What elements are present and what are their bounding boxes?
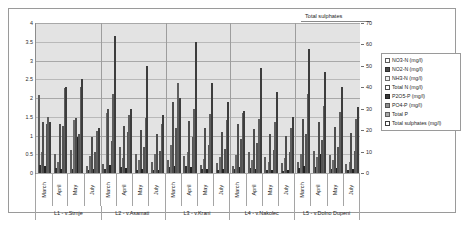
bar xyxy=(156,134,158,173)
month-axis-cell: April xyxy=(116,174,133,206)
legend-item[interactable]: Total sulphates (mg/l) xyxy=(385,119,458,128)
legend-item[interactable]: Total N (mg/l) xyxy=(385,83,458,92)
right-axis-tick-label: 10 xyxy=(366,149,372,155)
bar xyxy=(204,128,206,173)
right-axis-tick-label: 60 xyxy=(366,41,372,47)
month-axis-label: July xyxy=(348,185,354,195)
location-group-cell: L3 - v.Krani xyxy=(165,206,231,220)
right-axis-tickmark xyxy=(361,44,364,45)
gridline xyxy=(36,61,360,62)
month-axis-label: May xyxy=(267,185,273,196)
bar xyxy=(334,127,336,173)
legend-label: NO2-N (mg/l) xyxy=(392,65,423,74)
month-axis-label: March xyxy=(170,182,176,198)
month-axis-cell: July xyxy=(343,174,360,206)
bar xyxy=(107,109,109,173)
gridline xyxy=(36,117,360,118)
legend-item[interactable]: NO2-N (mg/l) xyxy=(385,65,458,74)
month-axis-label: March xyxy=(105,182,111,198)
right-axis-tickmark xyxy=(361,66,364,67)
legend-label: NO3-N (mg/l) xyxy=(392,56,423,65)
total-sulphates-annotation: Total sulphates xyxy=(305,13,342,19)
bar xyxy=(140,130,142,173)
right-axis-tick-label: 70 xyxy=(366,20,372,26)
chart-figure: Total sulphates 00.511.522.533.54 010203… xyxy=(0,0,464,232)
bar xyxy=(81,79,83,173)
legend-item[interactable]: PO4-P (mg/l) xyxy=(385,101,458,110)
bar xyxy=(285,136,287,173)
right-axis-tick-label: 30 xyxy=(366,106,372,112)
right-axis-tickmark xyxy=(361,152,364,153)
bar xyxy=(302,119,304,173)
gridline xyxy=(36,154,360,155)
month-axis-label: July xyxy=(218,185,224,195)
bar xyxy=(227,102,229,173)
chart-frame: Total sulphates 00.511.522.533.54 010203… xyxy=(8,8,456,213)
legend-item[interactable]: NO3-N (mg/l) xyxy=(385,56,458,65)
month-axis-label: April xyxy=(56,184,62,195)
right-axis-tick-label: 40 xyxy=(366,84,372,90)
location-group-label: L4 - v.Nakolec xyxy=(245,210,279,216)
bar xyxy=(172,102,174,173)
bar xyxy=(98,128,100,173)
group-separator xyxy=(295,23,296,173)
legend-label: P2O5-P (mg/l) xyxy=(392,92,425,101)
month-axis-label: May xyxy=(202,185,208,196)
bar xyxy=(276,92,278,173)
month-axis-cell: March xyxy=(229,174,246,206)
bar xyxy=(59,124,61,173)
legend-swatch-icon xyxy=(385,94,390,99)
bar xyxy=(221,132,223,173)
bar xyxy=(146,66,148,173)
month-axis-cell: April xyxy=(310,174,327,206)
month-axis-label: April xyxy=(315,184,321,195)
location-group-label: L5 - v.Dolno Dupeni xyxy=(303,210,350,216)
month-axis-cell: July xyxy=(84,174,101,206)
month-axis-cell: May xyxy=(262,174,279,206)
location-group-cell: L4 - v.Nakolec xyxy=(229,206,295,220)
left-axis-tick-label: 3.5 xyxy=(26,39,34,45)
legend-swatch-icon xyxy=(385,67,390,72)
legend-swatch-icon xyxy=(385,85,390,90)
legend-item[interactable]: P2O5-P (mg/l) xyxy=(385,92,458,101)
right-axis-tick-label: 50 xyxy=(366,63,372,69)
bar xyxy=(292,117,294,173)
bar xyxy=(91,137,93,173)
right-axis-tickmark xyxy=(361,23,364,24)
month-axis-cell: May xyxy=(132,174,149,206)
month-axis-label: May xyxy=(137,185,143,196)
location-group-label: L1 - v.Strnje xyxy=(54,210,83,216)
month-axis-label: July xyxy=(153,185,159,195)
gridline xyxy=(36,79,360,80)
month-axis-cell: March xyxy=(165,174,182,206)
location-group-cell: L1 - v.Strnje xyxy=(35,206,102,220)
bar xyxy=(188,121,190,174)
legend-label: Total N (mg/l) xyxy=(392,83,423,92)
right-axis-tick-label: 0 xyxy=(366,170,369,176)
bar xyxy=(211,83,213,173)
bar xyxy=(65,87,67,173)
legend-item[interactable]: NH3-N (mg/l) xyxy=(385,74,458,83)
month-axis-label: May xyxy=(72,185,78,196)
legend-item[interactable]: Total P xyxy=(385,110,458,119)
legend-swatch-icon xyxy=(385,112,390,117)
month-axis-label: March xyxy=(234,182,240,198)
location-group-cell: L2 - v.Asamati xyxy=(100,206,166,220)
bar xyxy=(357,107,359,173)
group-separator xyxy=(230,23,231,173)
bar xyxy=(179,98,181,173)
bar xyxy=(324,72,326,173)
legend-label: PO4-P (mg/l) xyxy=(392,101,422,110)
month-axis-label: July xyxy=(89,185,95,195)
left-axis-tick-label: 1.5 xyxy=(26,114,34,120)
gridline xyxy=(36,23,360,24)
bar xyxy=(38,95,40,173)
location-group-label: L3 - v.Krani xyxy=(183,210,210,216)
month-axis-label: March xyxy=(299,182,305,198)
bar xyxy=(260,68,262,173)
month-axis-cell: May xyxy=(197,174,214,206)
left-axis-tick-label: 3 xyxy=(30,58,33,64)
right-axis-tickmark xyxy=(361,87,364,88)
month-axis-cell: March xyxy=(100,174,117,206)
legend-swatch-icon xyxy=(385,121,390,126)
